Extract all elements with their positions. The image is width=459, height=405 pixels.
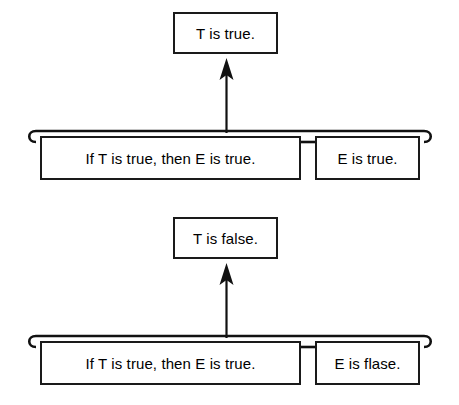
premise-text: E is true.	[337, 150, 397, 167]
up-arrow-icon	[220, 263, 234, 285]
argument-block-modus-tollens: T is false. If T is true, then E is true…	[0, 205, 459, 400]
premise-box-conditional: If T is true, then E is true.	[40, 341, 301, 385]
conclusion-box: T is true.	[173, 12, 278, 54]
conclusion-text: T is true.	[196, 25, 255, 42]
conclusion-text: T is false.	[193, 230, 258, 247]
premise-box-evidence: E is true.	[315, 136, 420, 180]
up-arrow-icon	[220, 58, 234, 80]
argument-block-modus-ponens: T is true. If T is true, then E is true.…	[0, 0, 459, 195]
conclusion-box: T is false.	[173, 217, 278, 259]
premise-text: If T is true, then E is true.	[86, 355, 256, 372]
premise-box-conditional: If T is true, then E is true.	[40, 136, 301, 180]
premise-box-evidence: E is flase.	[315, 341, 420, 385]
premise-text: E is flase.	[334, 355, 400, 372]
premise-text: If T is true, then E is true.	[86, 150, 256, 167]
